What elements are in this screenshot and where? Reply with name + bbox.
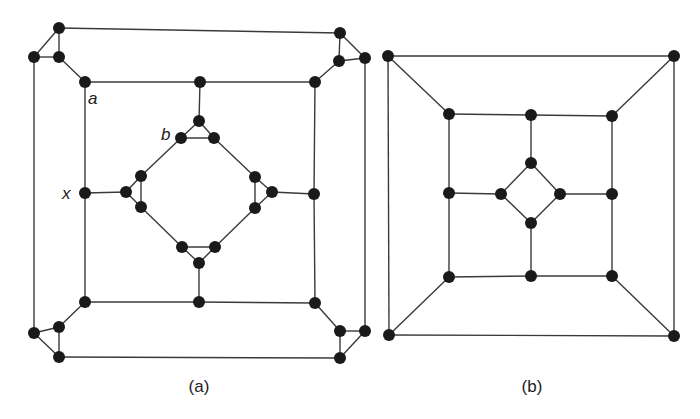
graph-vertex bbox=[334, 352, 346, 364]
graph-vertex bbox=[120, 186, 132, 198]
panel-a-caption: (a) bbox=[189, 377, 210, 396]
panel-a-graph: abx (a) bbox=[28, 22, 371, 396]
graph-edge bbox=[272, 192, 314, 194]
vertex-label: b bbox=[161, 125, 170, 144]
graph-vertex bbox=[135, 170, 147, 182]
graph-edge bbox=[59, 28, 340, 33]
graph-vertex bbox=[443, 108, 455, 120]
graph-vertex bbox=[209, 241, 221, 253]
graph-vertex bbox=[309, 76, 321, 88]
graph-vertex bbox=[334, 27, 346, 39]
graph-vertex bbox=[668, 330, 680, 342]
graph-edge bbox=[531, 163, 560, 194]
graph-edge bbox=[214, 138, 255, 177]
vertex-label: x bbox=[61, 184, 71, 203]
graph-vertex bbox=[28, 51, 40, 63]
graph-vertex bbox=[525, 109, 537, 121]
graph-vertex bbox=[193, 257, 205, 269]
graph-diagram: abx (a) (b) bbox=[0, 0, 700, 419]
graph-vertex bbox=[308, 188, 320, 200]
graph-vertex bbox=[309, 297, 321, 309]
graph-vertex bbox=[668, 50, 680, 62]
graph-edge bbox=[449, 193, 501, 194]
graph-vertex bbox=[333, 55, 345, 67]
graph-vertex bbox=[554, 188, 566, 200]
graph-vertex bbox=[383, 329, 395, 341]
graph-vertex bbox=[266, 186, 278, 198]
graph-vertex bbox=[249, 171, 261, 183]
graph-edge bbox=[501, 194, 531, 223]
graph-vertex bbox=[53, 51, 65, 63]
graph-edge bbox=[141, 207, 182, 247]
graph-edge bbox=[85, 192, 126, 193]
vertex-label: a bbox=[88, 89, 97, 108]
graph-vertex bbox=[79, 296, 91, 308]
graph-edge bbox=[449, 276, 531, 277]
graph-vertex bbox=[249, 202, 261, 214]
graph-vertex bbox=[193, 115, 205, 127]
graph-edge bbox=[388, 56, 389, 335]
graph-vertex bbox=[135, 201, 147, 213]
graph-edge bbox=[388, 56, 449, 114]
graph-vertex bbox=[382, 50, 394, 62]
graph-vertex bbox=[208, 132, 220, 144]
graph-edge bbox=[389, 335, 674, 336]
graph-vertex bbox=[175, 132, 187, 144]
graph-edge bbox=[531, 194, 560, 223]
graph-vertex bbox=[79, 187, 91, 199]
graph-edge bbox=[531, 115, 612, 116]
panel-a-nodes bbox=[28, 22, 371, 364]
graph-edge bbox=[449, 114, 531, 115]
graph-vertex bbox=[53, 22, 65, 34]
graph-vertex bbox=[28, 327, 40, 339]
graph-vertex bbox=[334, 325, 346, 337]
graph-vertex bbox=[194, 76, 206, 88]
graph-vertex bbox=[495, 188, 507, 200]
graph-vertex bbox=[53, 321, 65, 333]
graph-vertex bbox=[53, 351, 65, 363]
graph-edge bbox=[501, 163, 531, 194]
panel-b-caption: (b) bbox=[522, 377, 543, 396]
panel-a-vertex-labels: abx bbox=[61, 89, 170, 203]
graph-edge bbox=[215, 208, 255, 247]
graph-vertex bbox=[525, 217, 537, 229]
graph-edge bbox=[389, 277, 449, 335]
graph-vertex bbox=[359, 325, 371, 337]
panel-b-graph: (b) bbox=[382, 50, 680, 396]
graph-vertex bbox=[443, 271, 455, 283]
graph-vertex bbox=[443, 187, 455, 199]
graph-edge bbox=[612, 56, 674, 116]
graph-vertex bbox=[193, 296, 205, 308]
graph-vertex bbox=[79, 76, 91, 88]
graph-edge bbox=[314, 82, 315, 194]
graph-edge bbox=[199, 302, 315, 303]
graph-vertex bbox=[525, 270, 537, 282]
panel-b-edges bbox=[388, 56, 674, 336]
graph-vertex bbox=[606, 188, 618, 200]
graph-vertex bbox=[606, 110, 618, 122]
graph-edge bbox=[59, 357, 340, 358]
graph-vertex bbox=[606, 270, 618, 282]
graph-vertex bbox=[176, 241, 188, 253]
graph-vertex bbox=[525, 157, 537, 169]
graph-vertex bbox=[359, 52, 371, 64]
graph-edge bbox=[612, 276, 674, 336]
graph-edge bbox=[314, 194, 315, 303]
